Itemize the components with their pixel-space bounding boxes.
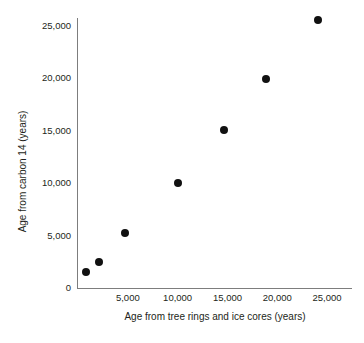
x-tick-label: 10,000 <box>163 293 192 303</box>
y-axis-tick-labels: 05,00010,00015,00020,00025,000 <box>0 0 71 343</box>
x-tick-label: 15,000 <box>213 293 242 303</box>
plot-area <box>78 10 352 288</box>
data-point <box>174 179 182 187</box>
x-tick-label: 5,000 <box>116 293 140 303</box>
y-tick-label: 25,000 <box>42 21 71 31</box>
x-axis-line <box>77 288 352 289</box>
y-tick-label: 10,000 <box>42 178 71 188</box>
data-point <box>262 75 270 83</box>
y-tick-label: 15,000 <box>42 126 71 136</box>
y-tick-label: 0 <box>66 283 71 293</box>
x-axis-title: Age from tree rings and ice cores (years… <box>78 311 352 323</box>
scatter-chart: 05,00010,00015,00020,00025,000 5,00010,0… <box>0 0 364 343</box>
y-axis-title: Age from carbon 14 (years) <box>14 0 32 343</box>
x-tick-label: 25,000 <box>313 293 342 303</box>
x-tick-label: 20,000 <box>263 293 292 303</box>
y-tick-label: 20,000 <box>42 73 71 83</box>
y-tick-label: 5,000 <box>47 231 71 241</box>
